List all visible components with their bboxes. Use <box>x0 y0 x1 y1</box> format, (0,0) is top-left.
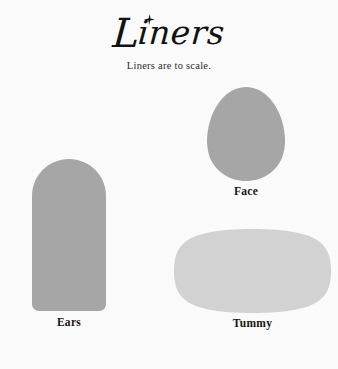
page-title-text: Liners <box>112 10 227 56</box>
liner-shape-face: Face <box>206 87 286 181</box>
page-title: Liners <box>0 10 338 58</box>
page-title-rest: iners <box>137 13 226 52</box>
liner-label-tummy: Tummy <box>233 317 272 329</box>
tummy-liner-oval-icon <box>174 229 331 313</box>
liner-label-face: Face <box>234 185 258 197</box>
page-title-initial: L <box>112 10 142 56</box>
liner-label-ears: Ears <box>57 316 81 328</box>
liners-diagram-page: Liners Liners are to scale. Face Ears Tu… <box>0 0 338 369</box>
liner-shape-tummy: Tummy <box>174 229 331 313</box>
ears-liner-arch-icon <box>32 159 106 311</box>
liner-shape-ears: Ears <box>32 159 106 311</box>
page-subtitle: Liners are to scale. <box>0 60 338 71</box>
face-liner-egg-icon <box>206 87 286 181</box>
